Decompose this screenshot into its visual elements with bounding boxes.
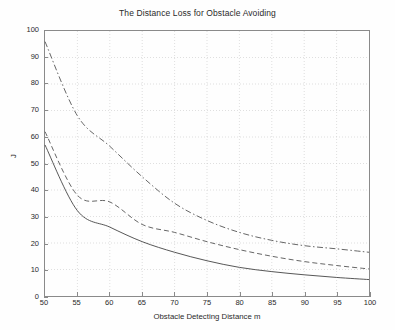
x-tick-label: 95 (322, 299, 352, 307)
figure-canvas: The Distance Loss for Obstacle Avoiding … (0, 0, 395, 330)
y-tickmark (44, 137, 48, 138)
x-tick-label: 50 (29, 299, 59, 307)
y-tickmark (44, 190, 48, 191)
y-tickmark (44, 83, 48, 84)
x-tick-label: 55 (62, 299, 92, 307)
x-tick-label: 80 (225, 299, 255, 307)
y-tick-label: 90 (13, 53, 39, 61)
y-tick-label: 30 (13, 213, 39, 221)
x-tickmark (174, 292, 175, 297)
x-tick-label: 100 (355, 299, 385, 307)
y-axis-label: J (9, 154, 18, 158)
x-tickmark (207, 292, 208, 297)
x-tickmark (272, 292, 273, 297)
x-axis-label: Obstacle Detecting Distance m (44, 312, 370, 321)
series-lower-curve (45, 145, 369, 280)
y-tickmark (44, 57, 48, 58)
x-tick-label: 75 (192, 299, 222, 307)
series-upper-curve (45, 42, 369, 253)
page-title: The Distance Loss for Obstacle Avoiding (0, 8, 395, 18)
x-tickmark (77, 292, 78, 297)
y-tick-label: 80 (13, 79, 39, 87)
y-tick-label: 100 (13, 26, 39, 34)
x-tick-label: 60 (94, 299, 124, 307)
x-tick-label: 65 (127, 299, 157, 307)
y-tickmark (44, 244, 48, 245)
y-tick-label: 40 (13, 186, 39, 194)
x-tick-label: 90 (290, 299, 320, 307)
y-tick-label: 70 (13, 106, 39, 114)
y-tickmark (44, 164, 48, 165)
x-tick-label: 85 (257, 299, 287, 307)
x-tickmark (142, 292, 143, 297)
y-tick-label: 60 (13, 133, 39, 141)
y-tick-label: 20 (13, 240, 39, 248)
x-tickmark (337, 292, 338, 297)
x-tick-label: 70 (159, 299, 189, 307)
series-middle-curve (45, 132, 369, 269)
x-tickmark (305, 292, 306, 297)
x-tickmark (240, 292, 241, 297)
y-tickmark (44, 217, 48, 218)
x-tickmark (109, 292, 110, 297)
series-layer (45, 31, 369, 296)
y-tick-label: 10 (13, 266, 39, 274)
y-tickmark (44, 30, 48, 31)
plot-area (44, 30, 370, 297)
y-tickmark (44, 270, 48, 271)
y-tick-label: 50 (13, 160, 39, 168)
x-tickmark (370, 292, 371, 297)
y-tickmark (44, 110, 48, 111)
x-tickmark (44, 292, 45, 297)
